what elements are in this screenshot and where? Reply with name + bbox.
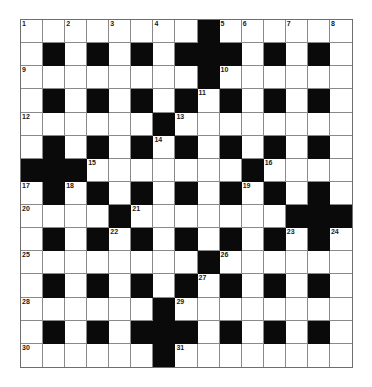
answer-cell[interactable] [109,159,131,182]
answer-cell[interactable] [65,43,87,66]
answer-cell[interactable] [87,344,109,367]
answer-cell[interactable] [242,136,264,159]
answer-cell[interactable] [286,298,308,321]
answer-cell[interactable] [43,344,65,367]
answer-cell[interactable] [330,66,352,89]
answer-cell[interactable] [330,89,352,112]
answer-cell[interactable] [65,344,87,367]
answer-cell[interactable] [109,298,131,321]
answer-cell[interactable] [87,205,109,228]
answer-cell[interactable]: 18 [65,182,87,205]
answer-cell[interactable] [264,66,286,89]
answer-cell[interactable] [220,205,242,228]
answer-cell[interactable]: 14 [153,136,175,159]
answer-cell[interactable] [286,159,308,182]
answer-cell[interactable] [65,136,87,159]
answer-cell[interactable] [175,66,197,89]
answer-cell[interactable] [109,136,131,159]
answer-cell[interactable] [65,228,87,251]
answer-cell[interactable] [153,43,175,66]
answer-cell[interactable]: 17 [21,182,43,205]
answer-cell[interactable] [286,344,308,367]
answer-cell[interactable] [43,205,65,228]
answer-cell[interactable]: 23 [286,228,308,251]
answer-cell[interactable]: 28 [21,298,43,321]
answer-cell[interactable]: 12 [21,113,43,136]
answer-cell[interactable] [153,251,175,274]
answer-cell[interactable] [109,66,131,89]
answer-cell[interactable] [264,205,286,228]
answer-cell[interactable] [198,344,220,367]
answer-cell[interactable] [131,251,153,274]
answer-cell[interactable] [286,89,308,112]
answer-cell[interactable] [286,182,308,205]
answer-cell[interactable] [65,205,87,228]
answer-cell[interactable] [242,66,264,89]
answer-cell[interactable] [286,43,308,66]
answer-cell[interactable] [65,321,87,344]
answer-cell[interactable] [220,344,242,367]
answer-cell[interactable] [242,251,264,274]
answer-cell[interactable]: 10 [220,66,242,89]
answer-cell[interactable]: 22 [109,228,131,251]
answer-cell[interactable] [153,274,175,297]
answer-cell[interactable] [286,251,308,274]
answer-cell[interactable] [308,251,330,274]
answer-cell[interactable] [286,66,308,89]
answer-cell[interactable] [242,228,264,251]
answer-cell[interactable] [21,89,43,112]
answer-cell[interactable] [198,321,220,344]
answer-cell[interactable] [220,298,242,321]
answer-cell[interactable] [153,89,175,112]
answer-cell[interactable] [308,344,330,367]
answer-cell[interactable]: 8 [330,20,352,43]
answer-cell[interactable] [330,251,352,274]
answer-cell[interactable]: 31 [175,344,197,367]
answer-cell[interactable]: 13 [175,113,197,136]
answer-cell[interactable] [220,159,242,182]
answer-cell[interactable] [330,159,352,182]
answer-cell[interactable] [264,251,286,274]
answer-cell[interactable] [21,274,43,297]
answer-cell[interactable] [198,205,220,228]
answer-cell[interactable] [242,113,264,136]
answer-cell[interactable]: 11 [198,89,220,112]
answer-cell[interactable] [109,321,131,344]
answer-cell[interactable] [220,113,242,136]
answer-cell[interactable]: 4 [153,20,175,43]
answer-cell[interactable] [264,298,286,321]
answer-cell[interactable]: 1 [21,20,43,43]
answer-cell[interactable] [131,113,153,136]
answer-cell[interactable] [131,66,153,89]
answer-cell[interactable]: 19 [242,182,264,205]
answer-cell[interactable] [242,43,264,66]
answer-cell[interactable] [65,251,87,274]
answer-cell[interactable]: 24 [330,228,352,251]
answer-cell[interactable] [65,113,87,136]
answer-cell[interactable] [264,20,286,43]
answer-cell[interactable] [65,66,87,89]
answer-cell[interactable] [242,344,264,367]
answer-cell[interactable] [330,298,352,321]
answer-cell[interactable] [330,113,352,136]
answer-cell[interactable] [198,182,220,205]
answer-cell[interactable] [330,321,352,344]
answer-cell[interactable] [21,43,43,66]
answer-cell[interactable] [308,113,330,136]
answer-cell[interactable] [109,89,131,112]
answer-cell[interactable] [242,205,264,228]
answer-cell[interactable] [109,43,131,66]
answer-cell[interactable] [131,20,153,43]
answer-cell[interactable] [242,274,264,297]
answer-cell[interactable]: 9 [21,66,43,89]
answer-cell[interactable]: 26 [220,251,242,274]
answer-cell[interactable] [286,321,308,344]
answer-cell[interactable] [43,20,65,43]
answer-cell[interactable] [21,136,43,159]
answer-cell[interactable]: 21 [131,205,153,228]
answer-cell[interactable] [153,205,175,228]
answer-cell[interactable] [264,113,286,136]
answer-cell[interactable] [330,182,352,205]
answer-cell[interactable] [175,159,197,182]
answer-cell[interactable] [330,43,352,66]
